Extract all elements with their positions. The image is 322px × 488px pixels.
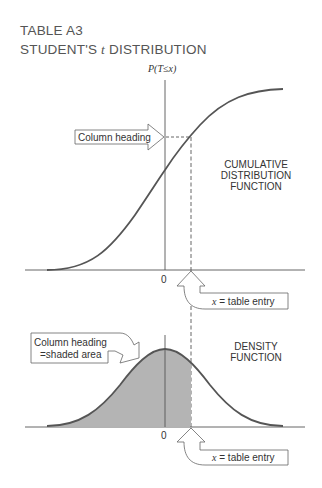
diagram-canvas: P(T≤x) 0 Column heading CUMULATIVE DISTR…	[0, 0, 322, 488]
cdf-function-label-1: CUMULATIVE	[224, 159, 288, 170]
cdf-y-axis-label: P(T≤x)	[147, 63, 177, 75]
density-column-heading-label-2: =shaded area	[40, 349, 102, 360]
cdf-column-heading-label: Column heading	[78, 132, 151, 143]
cdf-function-label-2: DISTRIBUTION	[221, 170, 292, 181]
density-table-entry-label: x = table entry	[211, 452, 275, 463]
cdf-column-heading-callout: Column heading	[75, 124, 164, 150]
density-origin-label: 0	[161, 430, 167, 441]
cdf-table-entry-label: x = table entry	[211, 296, 275, 307]
density-column-heading-label-1: Column heading	[34, 337, 107, 348]
cdf-origin-label: 0	[161, 274, 167, 285]
density-table-entry-callout: x = table entry	[177, 428, 288, 465]
density-column-heading-callout: Column heading =shaded area	[31, 333, 139, 363]
density-function-label-2: FUNCTION	[230, 352, 282, 363]
density-panel: 0 Column heading =shaded area DENSITY FU…	[25, 333, 305, 465]
density-function-label-1: DENSITY	[234, 341, 278, 352]
cdf-table-entry-callout: x = table entry	[177, 271, 288, 309]
cdf-function-label-3: FUNCTION	[230, 181, 282, 192]
